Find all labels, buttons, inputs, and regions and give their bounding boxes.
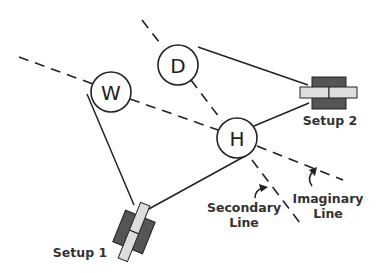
sightline-setup2-d bbox=[198, 47, 308, 85]
camera-setup1-icon bbox=[108, 198, 160, 266]
node-d: D bbox=[158, 45, 198, 85]
setup2-label: Setup 2 bbox=[303, 113, 357, 128]
secondary-line-label-2: Line bbox=[229, 215, 259, 230]
sightline-setup2-h bbox=[254, 103, 309, 126]
secondary-arrowhead-icon bbox=[259, 184, 268, 192]
imaginary-line bbox=[19, 57, 93, 84]
node-h: H bbox=[217, 118, 257, 158]
imaginary-line-segment bbox=[257, 146, 343, 180]
node-w: W bbox=[91, 72, 131, 112]
node-h-label: H bbox=[229, 127, 244, 151]
node-w-label: W bbox=[101, 81, 121, 105]
camera-setup2-icon bbox=[300, 77, 357, 109]
imaginary-line-label-1: Imaginary bbox=[293, 191, 364, 206]
secondary-line bbox=[142, 20, 163, 47]
camera-setup-diagram: W D H Setup 2 Setup 1 Secondary Line Ima… bbox=[0, 0, 383, 273]
node-d-label: D bbox=[170, 54, 185, 78]
imaginary-line-label-2: Line bbox=[313, 206, 343, 221]
imaginary-line-segment bbox=[130, 99, 218, 130]
secondary-line-label-1: Secondary bbox=[207, 200, 281, 215]
setup1-label: Setup 1 bbox=[53, 245, 107, 260]
secondary-line-segment bbox=[191, 80, 222, 121]
